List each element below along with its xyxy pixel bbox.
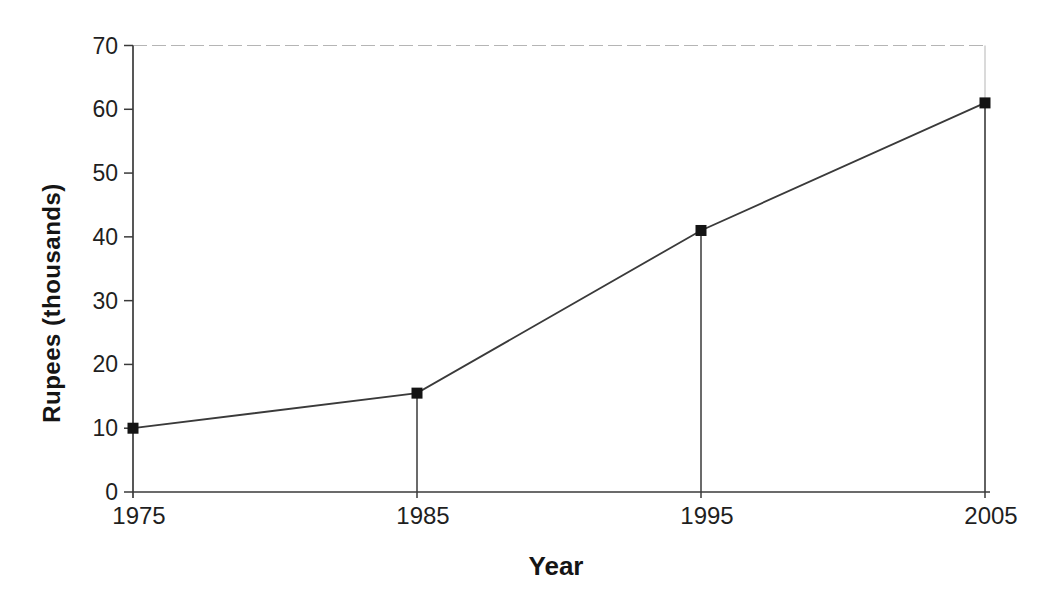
y-tick-label: 60	[92, 96, 118, 122]
x-axis-title: Year	[529, 551, 584, 582]
y-tick-label: 30	[92, 288, 118, 314]
y-tick-label: 20	[92, 351, 118, 377]
data-point-marker	[412, 388, 423, 399]
y-axis-title: Rupees (thousands)	[38, 183, 66, 423]
plot-area: 0102030405060701975198519952005	[0, 0, 1043, 615]
x-tick-label: 2005	[964, 502, 1017, 529]
y-tick-label: 10	[92, 415, 118, 441]
series-line	[133, 103, 985, 428]
data-point-marker	[696, 225, 707, 236]
y-tick-label: 70	[92, 33, 118, 59]
x-tick-label: 1995	[680, 502, 733, 529]
data-point-marker	[980, 97, 991, 108]
y-tick-label: 50	[92, 160, 118, 186]
x-tick-label: 1985	[396, 502, 449, 529]
line-chart-figure: 0102030405060701975198519952005 Rupees (…	[0, 0, 1043, 615]
x-tick-label: 1975	[112, 502, 165, 529]
y-tick-label: 40	[92, 224, 118, 250]
data-point-marker	[128, 423, 139, 434]
